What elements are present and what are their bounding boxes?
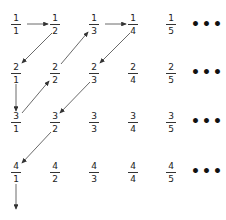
fraction-4-4: 44 <box>126 161 140 184</box>
arrow-2-3-to-3-2 <box>60 82 90 113</box>
fraction-4-5: 45 <box>164 161 178 184</box>
fraction-1-1: 11 <box>9 13 23 36</box>
fraction-3-2: 32 <box>48 111 62 134</box>
fraction-2-1: 21 <box>9 62 23 85</box>
fraction-2-5: 25 <box>164 62 178 85</box>
fraction-4-3: 43 <box>87 161 101 184</box>
arrow-3-2-to-4-1 <box>22 132 51 163</box>
fraction-2-3: 23 <box>87 62 101 85</box>
arrow-1-4-to-2-3 <box>100 33 130 63</box>
fraction-3-4: 34 <box>126 111 140 134</box>
ellipsis-row-1: ••• <box>191 19 224 29</box>
fraction-4-1: 41 <box>9 161 23 184</box>
fraction-3-3: 33 <box>87 111 101 134</box>
arrow-1-2-to-2-1 <box>22 33 52 63</box>
fraction-2-2: 22 <box>48 62 62 85</box>
arrow-layer <box>0 0 226 220</box>
fraction-2-4: 24 <box>126 62 140 85</box>
arrow-2-2-to-1-3 <box>61 32 88 64</box>
fraction-1-4: 14 <box>126 13 140 36</box>
cantor-diagram: 11 12 13 14 15 ••• 21 22 23 24 25 ••• 31… <box>0 0 226 220</box>
fraction-3-1: 31 <box>9 111 23 134</box>
fraction-1-5: 15 <box>164 13 178 36</box>
fraction-4-2: 42 <box>48 161 62 184</box>
fraction-1-3: 13 <box>87 13 101 36</box>
ellipsis-row-3: ••• <box>191 116 224 126</box>
arrow-3-1-to-2-2 <box>22 81 49 113</box>
fraction-3-5: 35 <box>164 111 178 134</box>
ellipsis-row-2: ••• <box>191 67 224 77</box>
fraction-1-2: 12 <box>48 13 62 36</box>
ellipsis-row-4: ••• <box>191 166 224 176</box>
